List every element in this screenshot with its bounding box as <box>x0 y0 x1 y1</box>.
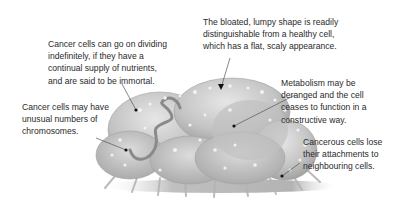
annotation-attachments: Cancerous cells lose their attachments t… <box>303 136 382 173</box>
annotation-chromosomes: Cancer cells may have unusual numbers of… <box>22 101 109 138</box>
nucleus <box>212 100 288 160</box>
annotation-immortal: Cancer cells can go on dividing indefini… <box>48 38 167 87</box>
annotation-metabolism: Metabolism may be deranged and the cell … <box>281 77 367 126</box>
annotation-shape: The bloated, lumpy shape is readily dist… <box>203 16 338 53</box>
